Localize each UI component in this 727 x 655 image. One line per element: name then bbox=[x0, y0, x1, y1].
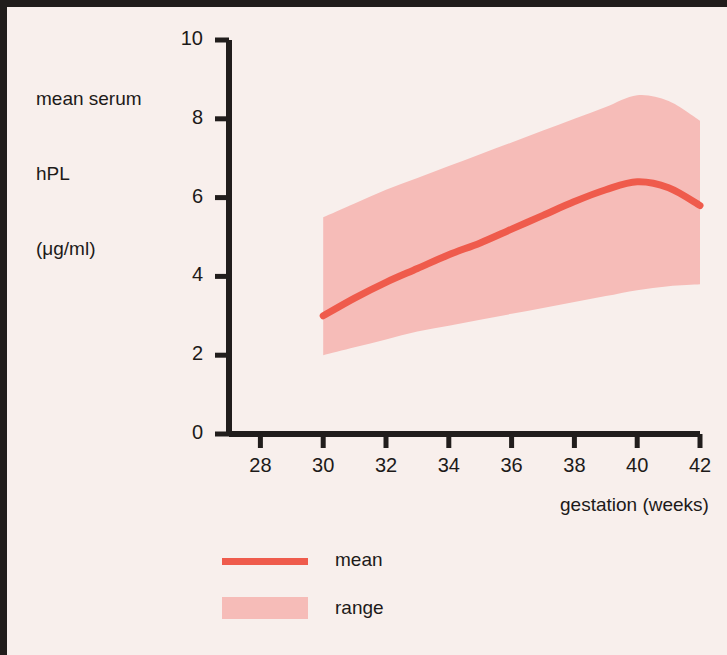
range-band-fill bbox=[323, 95, 700, 355]
y-tick-label: 10 bbox=[167, 27, 203, 50]
y-tick-label: 2 bbox=[167, 342, 203, 365]
legend-swatch-range bbox=[222, 597, 308, 619]
x-tick-label: 32 bbox=[363, 454, 409, 477]
x-tick-label: 38 bbox=[551, 454, 597, 477]
x-tick-label: 42 bbox=[677, 454, 723, 477]
y-tick-label: 0 bbox=[167, 421, 203, 444]
legend-swatch-mean bbox=[222, 558, 308, 565]
legend-label-range: range bbox=[335, 597, 384, 619]
figure-panel: mean serum hPL (μg/ml) gestation (weeks)… bbox=[0, 0, 727, 655]
x-tick-label: 40 bbox=[614, 454, 660, 477]
x-tick-label: 36 bbox=[489, 454, 535, 477]
x-tick-label: 34 bbox=[426, 454, 472, 477]
x-tick-label: 30 bbox=[300, 454, 346, 477]
x-tick-label: 28 bbox=[237, 454, 283, 477]
range-band bbox=[323, 95, 700, 355]
legend-label-mean: mean bbox=[335, 549, 383, 571]
y-tick-label: 6 bbox=[167, 185, 203, 208]
y-tick-label: 8 bbox=[167, 106, 203, 129]
y-tick-label: 4 bbox=[167, 263, 203, 286]
